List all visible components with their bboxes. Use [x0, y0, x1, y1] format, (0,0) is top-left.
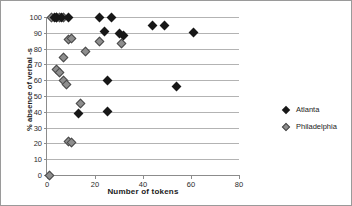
chart-legend: AtlantaPhiladelphia: [282, 101, 348, 135]
chart-figure: % absence of verbal -s 01020304050607080…: [0, 0, 352, 206]
diamond-marker-icon: [282, 105, 290, 113]
gridline-horizontal: [47, 143, 239, 144]
legend-item-atlanta: Atlanta: [282, 101, 348, 118]
y-tick-mark: [44, 112, 47, 113]
y-tick-label: 20: [34, 139, 42, 148]
data-point-atlanta: [73, 108, 83, 118]
data-point-atlanta: [188, 28, 198, 38]
legend-item-philadelphia: Philadelphia: [282, 118, 348, 135]
gridline-horizontal: [47, 159, 239, 160]
data-point-philadelphia: [116, 39, 126, 49]
legend-label: Philadelphia: [296, 122, 337, 131]
x-axis-title: Number of tokens: [47, 187, 239, 196]
x-tick-mark: [239, 176, 240, 179]
y-axis-title: % absence of verbal -s: [25, 15, 34, 165]
data-point-atlanta: [107, 12, 117, 22]
y-tick-mark: [44, 96, 47, 97]
y-tick-label: 100: [29, 13, 42, 22]
x-tick-mark: [191, 176, 192, 179]
y-tick-label: 30: [34, 123, 42, 132]
y-tick-mark: [44, 128, 47, 129]
data-point-philadelphia: [59, 52, 69, 62]
gridline-horizontal: [47, 64, 239, 65]
y-tick-label: 90: [34, 28, 42, 37]
gridline-horizontal: [47, 96, 239, 97]
data-point-atlanta: [102, 76, 112, 86]
gridline-horizontal: [47, 49, 239, 50]
y-tick-label: 50: [34, 92, 42, 101]
plot-area: 0102030405060708090100020406080: [47, 17, 239, 175]
data-point-atlanta: [95, 12, 105, 22]
data-point-atlanta: [160, 21, 170, 31]
y-tick-mark: [44, 33, 47, 34]
legend-label: Atlanta: [296, 105, 319, 114]
gridline-horizontal: [47, 80, 239, 81]
diamond-marker-icon: [282, 122, 290, 130]
x-tick-mark: [95, 176, 96, 179]
y-tick-label: 0: [38, 171, 42, 180]
gridline-horizontal: [47, 128, 239, 129]
data-point-philadelphia: [76, 99, 86, 109]
data-point-atlanta: [100, 26, 110, 36]
gridline-horizontal: [47, 33, 239, 34]
y-tick-mark: [44, 49, 47, 50]
y-tick-mark: [44, 80, 47, 81]
x-tick-mark: [143, 176, 144, 179]
data-point-atlanta: [102, 107, 112, 117]
y-tick-label: 60: [34, 76, 42, 85]
data-point-atlanta: [148, 21, 158, 31]
y-tick-label: 80: [34, 44, 42, 53]
y-tick-label: 10: [34, 155, 42, 164]
y-tick-mark: [44, 64, 47, 65]
y-tick-mark: [44, 143, 47, 144]
data-point-philadelphia: [95, 37, 105, 47]
gridline-horizontal: [47, 17, 239, 18]
data-point-atlanta: [172, 82, 182, 92]
y-tick-label: 70: [34, 60, 42, 69]
y-tick-mark: [44, 159, 47, 160]
y-tick-label: 40: [34, 107, 42, 116]
